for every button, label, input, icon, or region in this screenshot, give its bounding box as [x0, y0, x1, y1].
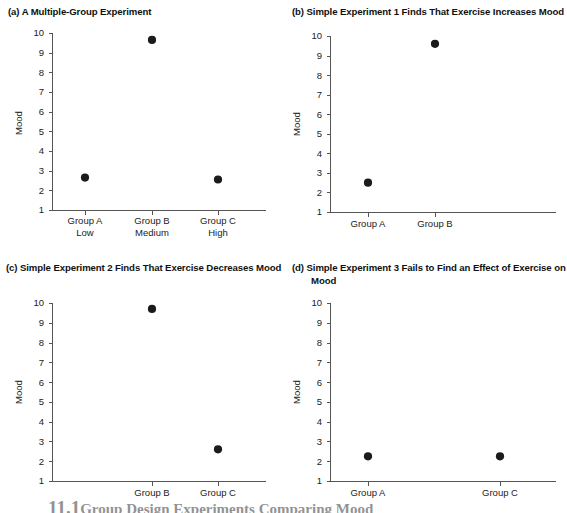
panel-d-x-ticks: Group AGroup C — [351, 482, 519, 499]
panel-d-ytick-label: 3 — [317, 436, 322, 447]
panel-b-x-axis: Group AGroup B — [331, 213, 557, 230]
panel-a-xtick-label: High — [208, 227, 228, 238]
panel-a-xtick-label: Low — [76, 227, 94, 238]
panel-c-y-axis-label: Mood — [13, 380, 24, 404]
panel-a-ytick-label: 2 — [39, 185, 44, 196]
panel-b-plot: 12345678910 Group AGroup B Mood — [278, 0, 556, 256]
panel-c-ytick-label: 10 — [33, 297, 44, 308]
panel-d-xtick-label: Group A — [351, 487, 387, 498]
panel-c-ytick-label: 3 — [39, 436, 44, 447]
panel-b-ytick-label: 2 — [317, 187, 322, 198]
figure-caption-number: 11.1 — [48, 500, 80, 513]
panel-c-ytick-label: 1 — [39, 475, 44, 486]
panel-b: (b) Simple Experiment 1 Finds That Exerc… — [278, 0, 556, 256]
panel-b-xtick-label: Group B — [417, 218, 452, 229]
panel-a-ytick-label: 9 — [39, 47, 44, 58]
panel-c-x-axis: Group BGroup C — [53, 482, 267, 499]
data-point — [214, 175, 222, 183]
panel-d-ytick-label: 6 — [317, 377, 322, 388]
panel-b-ytick-label: 7 — [317, 89, 322, 100]
panel-a-y-axis-label: Mood — [13, 111, 24, 135]
panel-a-plot: 12345678910 Group ALowGroup BMediumGroup… — [0, 0, 278, 256]
panel-a: (a) A Multiple-Group Experiment 12345678… — [0, 0, 278, 256]
panel-c-y-ticks: 12345678910 — [33, 297, 52, 486]
panel-d-x-axis: Group AGroup C — [331, 482, 557, 499]
panel-c-xtick-label: Group C — [200, 487, 236, 498]
panel-d-plot: 12345678910 Group AGroup C Mood — [278, 256, 556, 513]
panel-b-ytick-label: 1 — [317, 206, 322, 217]
data-point — [364, 452, 372, 460]
panel-a-ytick-label: 10 — [33, 27, 44, 38]
data-point — [81, 173, 89, 181]
panel-c-ytick-label: 8 — [39, 337, 44, 348]
panel-b-y-axis-label: Mood — [291, 112, 302, 136]
panel-a-x-axis: Group ALowGroup BMediumGroup CHigh — [53, 211, 267, 239]
panel-c-data-points — [148, 305, 222, 454]
panel-d-ytick-label: 7 — [317, 357, 322, 368]
panel-c-ytick-label: 6 — [39, 377, 44, 388]
panel-a-y-axis: 12345678910 — [33, 27, 52, 215]
panel-b-ytick-label: 5 — [317, 128, 322, 139]
panel-d-ytick-label: 1 — [317, 475, 322, 486]
data-point — [148, 36, 156, 44]
panel-a-ytick-label: 5 — [39, 126, 44, 137]
figure-caption-text: Group Design Experiments Comparing Mood — [80, 501, 373, 513]
panel-a-y-ticks: 12345678910 — [33, 27, 52, 215]
panel-b-ytick-label: 10 — [311, 30, 322, 41]
panel-a-xtick-label: Group B — [134, 215, 169, 226]
panel-b-ytick-label: 8 — [317, 70, 322, 81]
panel-b-x-ticks: Group AGroup B — [351, 213, 453, 230]
panel-c-ytick-label: 7 — [39, 357, 44, 368]
panel-d-xtick-label: Group C — [482, 487, 518, 498]
panel-c-ytick-label: 5 — [39, 396, 44, 407]
panel-b-ytick-label: 6 — [317, 109, 322, 120]
data-point — [431, 40, 439, 48]
panel-c: (c) Simple Experiment 2 Finds That Exerc… — [0, 256, 278, 512]
figure-caption: 11.1Group Design Experiments Comparing M… — [48, 500, 373, 513]
panel-d-y-axis: 12345678910 — [311, 297, 330, 486]
panel-a-ytick-label: 3 — [39, 165, 44, 176]
figure-caption-strip: 11.1Group Design Experiments Comparing M… — [0, 500, 556, 513]
panel-d: (d) Simple Experiment 3 Fails to Find an… — [278, 256, 556, 512]
panel-c-plot: 12345678910 Group BGroup C Mood — [0, 256, 278, 513]
panel-b-ytick-label: 3 — [317, 167, 322, 178]
panel-c-xtick-label: Group B — [134, 487, 169, 498]
panel-d-ytick-label: 8 — [317, 337, 322, 348]
panel-a-ytick-label: 8 — [39, 67, 44, 78]
panel-b-ytick-label: 9 — [317, 50, 322, 61]
panel-d-y-axis-label: Mood — [291, 380, 302, 404]
panel-c-ytick-label: 9 — [39, 317, 44, 328]
panel-a-data-points — [81, 36, 222, 184]
panel-d-ytick-label: 5 — [317, 396, 322, 407]
panel-b-ytick-label: 4 — [317, 148, 322, 159]
panel-a-ytick-label: 6 — [39, 106, 44, 117]
panel-c-ytick-label: 2 — [39, 456, 44, 467]
panel-a-ytick-label: 1 — [39, 204, 44, 215]
panel-a-x-ticks: Group ALowGroup BMediumGroup CHigh — [68, 211, 237, 239]
data-point — [214, 445, 222, 453]
panel-d-ytick-label: 2 — [317, 456, 322, 467]
panel-c-ytick-label: 4 — [39, 416, 44, 427]
panel-b-data-points — [364, 40, 439, 187]
panel-c-x-ticks: Group BGroup C — [134, 482, 236, 499]
data-point — [364, 179, 372, 187]
panel-d-ytick-label: 4 — [317, 416, 322, 427]
panel-b-xtick-label: Group A — [351, 218, 387, 229]
panel-d-ytick-label: 9 — [317, 317, 322, 328]
data-point — [148, 305, 156, 313]
panel-d-y-ticks: 12345678910 — [311, 297, 330, 486]
panel-d-data-points — [364, 452, 504, 460]
panel-a-xtick-label: Medium — [135, 227, 169, 238]
panel-c-y-axis: 12345678910 — [33, 297, 52, 486]
panel-b-y-ticks: 12345678910 — [311, 30, 330, 217]
panel-a-ytick-label: 7 — [39, 86, 44, 97]
data-point — [496, 452, 504, 460]
panel-b-y-axis: 12345678910 — [311, 30, 330, 217]
panel-d-ytick-label: 10 — [311, 297, 322, 308]
panel-a-ytick-label: 4 — [39, 145, 44, 156]
panel-a-xtick-label: Group C — [200, 215, 236, 226]
panel-a-xtick-label: Group A — [68, 215, 104, 226]
